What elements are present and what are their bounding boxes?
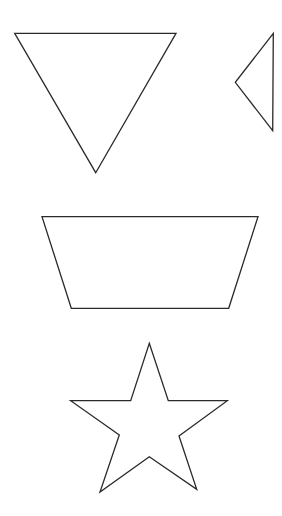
shapes-svg bbox=[0, 0, 282, 516]
shapes-canvas bbox=[0, 0, 282, 516]
left-pointing-triangle bbox=[235, 33, 273, 130]
star bbox=[71, 343, 228, 492]
trapezoid bbox=[42, 217, 258, 309]
inverted-triangle bbox=[15, 33, 176, 172]
